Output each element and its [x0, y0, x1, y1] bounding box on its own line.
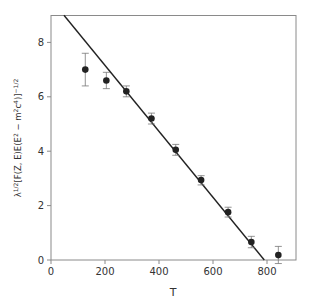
marker: [275, 252, 282, 259]
data-point: [248, 236, 255, 247]
x-tick-label: 400: [149, 266, 168, 277]
x-tick-label: 800: [257, 266, 276, 277]
data-point: [82, 53, 89, 86]
fit-line: [64, 15, 264, 260]
y-tick-label: 8: [38, 37, 44, 48]
data-point: [198, 176, 205, 185]
plot-frame: [51, 16, 296, 261]
data-point: [148, 113, 155, 124]
data-point: [172, 144, 179, 155]
marker: [123, 88, 130, 95]
kurie-plot: 020040060080002468 T λ1/2[F(Z, E)E(E2 − …: [0, 0, 309, 308]
fit-line-path: [64, 15, 264, 260]
marker: [172, 147, 179, 154]
y-tick-label: 2: [38, 200, 44, 211]
x-tick-label: 600: [203, 266, 222, 277]
ticks: 020040060080002468: [38, 37, 277, 277]
marker: [198, 177, 205, 184]
marker: [248, 239, 255, 246]
marker: [148, 115, 155, 122]
data-point: [275, 246, 282, 263]
y-tick-label: 0: [38, 255, 44, 266]
data-point: [103, 72, 110, 88]
y-axis-label: λ1/2[F(Z, E)E(E2 − m2c4)]−1/2: [12, 79, 24, 198]
y-tick-label: 6: [38, 91, 44, 102]
x-axis-label: T: [169, 286, 177, 299]
x-tick-label: 0: [48, 266, 54, 277]
marker: [225, 209, 232, 216]
data-point: [225, 207, 232, 217]
marker: [103, 77, 110, 84]
axes: [51, 16, 296, 261]
marker: [82, 66, 89, 73]
y-tick-label: 4: [38, 146, 44, 157]
x-tick-label: 200: [95, 266, 114, 277]
